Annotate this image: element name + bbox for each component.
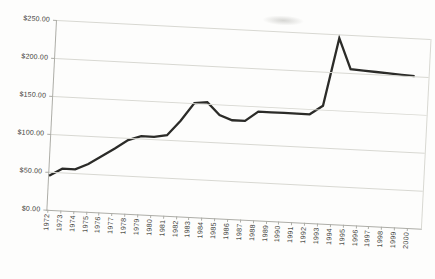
x-axis-label: 1991	[286, 226, 295, 243]
x-axis-tick	[266, 221, 267, 224]
scan-smudge	[262, 14, 304, 26]
y-axis-label: $150.00	[6, 90, 46, 100]
x-axis-label: 1980	[145, 219, 154, 236]
x-axis-label: 1984	[196, 221, 205, 238]
plot-area: $0.00$50.00$100.00$150.00$200.00$250.001…	[46, 20, 431, 230]
x-axis-label: 1994	[325, 228, 334, 245]
x-axis-tick	[368, 226, 369, 229]
x-axis-tick	[73, 211, 74, 214]
x-axis-tick	[201, 218, 202, 221]
x-axis-label: 1990	[273, 225, 282, 242]
x-axis-label: 1995	[338, 229, 347, 246]
x-axis-tick	[86, 212, 87, 215]
x-axis-tick	[317, 223, 318, 226]
x-axis-label: 1976	[94, 216, 103, 233]
x-axis-label: 2000	[402, 232, 411, 249]
x-axis-label: 1999	[389, 231, 398, 248]
x-axis-label: 1992	[299, 227, 308, 244]
x-axis-label: 1977	[107, 217, 116, 234]
y-axis-tick	[51, 57, 55, 58]
x-axis-tick	[304, 223, 305, 226]
y-axis-label: $200.00	[8, 52, 48, 62]
y-axis-label: $100.00	[4, 128, 44, 138]
x-axis-label: 1974	[68, 215, 77, 232]
y-axis-tick	[47, 133, 51, 134]
data-line	[49, 24, 416, 194]
x-axis-label: 1979	[132, 218, 141, 235]
y-axis-label: $0.00	[0, 203, 40, 213]
x-axis-tick	[291, 222, 292, 225]
x-axis-tick	[355, 225, 356, 228]
x-axis-tick	[381, 227, 382, 230]
x-axis-tick	[60, 210, 61, 213]
x-axis-label: 1993	[312, 227, 321, 244]
x-axis-label: 1987	[235, 223, 244, 240]
x-axis-label: 1978	[119, 218, 128, 235]
x-axis-tick	[150, 215, 151, 218]
x-axis-tick	[227, 219, 228, 222]
x-axis-tick	[394, 227, 395, 230]
line-series-svg	[47, 20, 430, 229]
x-axis-tick	[240, 220, 241, 223]
y-axis-label: $50.00	[2, 165, 42, 175]
x-axis-tick	[47, 210, 48, 213]
x-axis-tick	[188, 217, 189, 220]
x-axis-label: 1972	[42, 214, 51, 231]
x-axis-label: 1996	[351, 229, 360, 246]
x-axis-tick	[253, 220, 254, 223]
x-axis-tick	[330, 224, 331, 227]
x-axis-tick	[214, 218, 215, 221]
x-axis-tick	[407, 228, 408, 231]
x-axis-label: 1981	[158, 219, 167, 236]
x-axis-tick	[111, 213, 112, 216]
x-axis-tick	[99, 212, 100, 215]
y-axis-tick	[45, 171, 49, 172]
x-axis-tick	[278, 222, 279, 225]
x-axis-label: 1988	[248, 224, 257, 241]
x-axis-label: 1986	[222, 223, 231, 240]
scanned-chart: $0.00$50.00$100.00$150.00$200.00$250.001…	[0, 1, 434, 279]
x-axis-label: 1989	[261, 225, 270, 242]
x-axis-tick	[163, 216, 164, 219]
x-axis-label: 1973	[55, 214, 64, 231]
x-axis-label: 1998	[376, 231, 385, 248]
x-axis-label: 1982	[171, 220, 180, 237]
x-axis-label: 1985	[209, 222, 218, 239]
x-axis-label: 1975	[81, 216, 90, 233]
y-axis-tick	[49, 95, 53, 96]
y-axis-label: $250.00	[10, 14, 50, 24]
x-axis-tick	[343, 225, 344, 228]
x-axis-tick	[124, 214, 125, 217]
x-axis-tick	[137, 214, 138, 217]
x-axis-tick	[176, 216, 177, 219]
x-axis-label: 1983	[184, 221, 193, 238]
x-axis-label: 1997	[363, 230, 372, 247]
y-axis-tick	[53, 19, 57, 20]
